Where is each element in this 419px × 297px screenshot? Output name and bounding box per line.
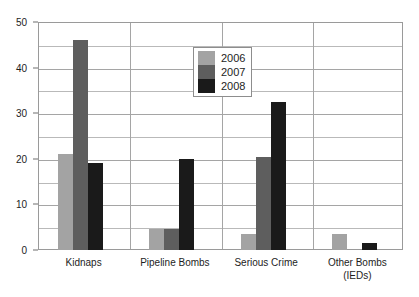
y-tick-label: 30 — [16, 108, 27, 119]
gridline-minor — [39, 183, 402, 184]
legend-label-2006: 2006 — [221, 51, 245, 65]
legend-swatch-2006 — [198, 51, 215, 65]
chart-legend: 200620072008 — [193, 47, 252, 97]
legend-swatches — [198, 51, 215, 93]
category-separator — [130, 23, 131, 249]
x-category-label: Other Bombs (IEDs) — [312, 256, 403, 282]
gridline-minor — [39, 137, 402, 138]
y-tick-label: 10 — [16, 199, 27, 210]
gridline-major — [39, 160, 402, 161]
gridline-major — [39, 114, 402, 115]
y-axis: 01020304050 — [0, 22, 33, 250]
bar-chart: 01020304050 KidnapsPipeline BombsSerious… — [0, 0, 419, 297]
legend-label-2008: 2008 — [221, 79, 245, 93]
y-tick-label: 0 — [21, 245, 27, 256]
y-tick-label: 20 — [16, 153, 27, 164]
y-tick-label: 50 — [16, 17, 27, 28]
gridline-major — [39, 205, 402, 206]
legend-swatch-2007 — [198, 65, 215, 79]
legend-labels: 200620072008 — [221, 51, 245, 93]
y-tick-label: 40 — [16, 62, 27, 73]
gridline-minor — [39, 228, 402, 229]
category-separator — [313, 23, 314, 249]
x-category-label: Serious Crime — [221, 256, 312, 269]
x-category-label: Pipeline Bombs — [129, 256, 220, 269]
legend-label-2007: 2007 — [221, 65, 245, 79]
x-category-label: Kidnaps — [38, 256, 129, 269]
legend-swatch-2008 — [198, 79, 215, 93]
